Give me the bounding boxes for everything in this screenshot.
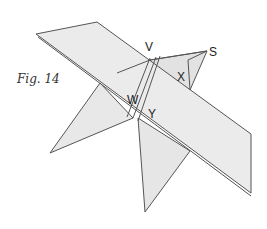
label-x: X <box>177 70 185 84</box>
figure-caption: Fig. 14 <box>16 72 60 86</box>
label-v: V <box>145 40 153 54</box>
label-w: W <box>127 93 139 107</box>
label-y: Y <box>148 107 156 121</box>
label-s: S <box>209 45 217 59</box>
figure-14-diagram: Fig. 14 V S X W Y <box>0 0 267 229</box>
